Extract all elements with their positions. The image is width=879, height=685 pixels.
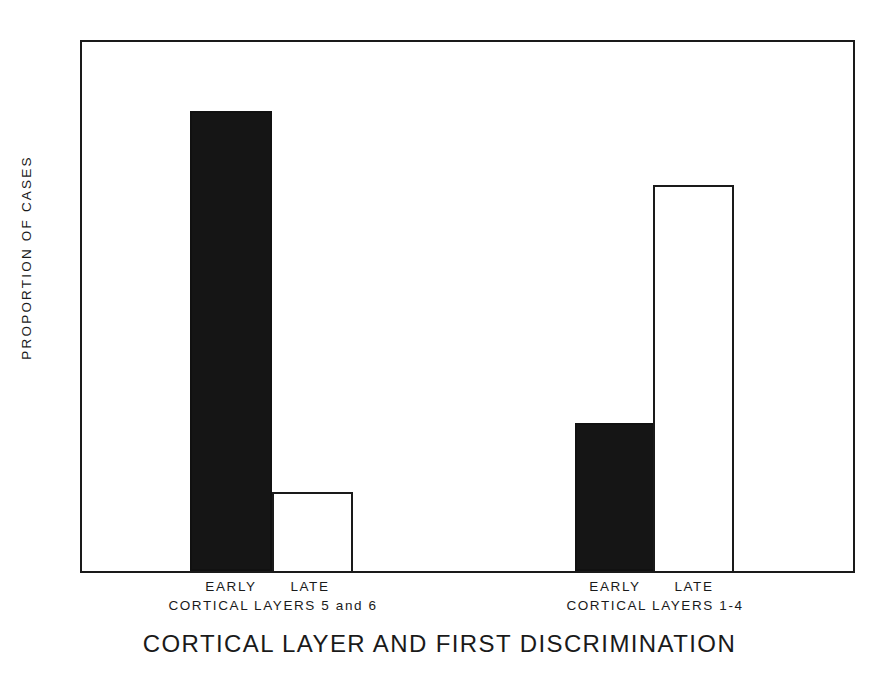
y-axis-title: PROPORTION OF CASES xyxy=(19,108,34,408)
chart-title: CORTICAL LAYER AND FIRST DISCRIMINATION xyxy=(0,630,879,658)
category-label-left-late: LATE xyxy=(270,579,350,594)
plot-area xyxy=(80,40,855,573)
bar-right-early xyxy=(575,423,655,571)
bar-chart-figure: PROPORTION OF CASES 100 75 50 25 0 EARLY… xyxy=(0,0,879,685)
category-label-left-early: EARLY xyxy=(192,579,270,594)
group-left-category-labels: EARLYLATE xyxy=(190,579,352,594)
category-label-right-early: EARLY xyxy=(576,579,654,594)
group-left-sub-label: CORTICAL LAYERS 5 and 6 xyxy=(108,598,438,613)
group-right-category-labels: EARLYLATE xyxy=(575,579,735,594)
category-label-right-late: LATE xyxy=(654,579,734,594)
bar-left-late xyxy=(272,492,353,571)
bar-right-late xyxy=(653,185,734,571)
bar-left-early xyxy=(190,111,272,571)
group-right-sub-label: CORTICAL LAYERS 1-4 xyxy=(500,598,810,613)
